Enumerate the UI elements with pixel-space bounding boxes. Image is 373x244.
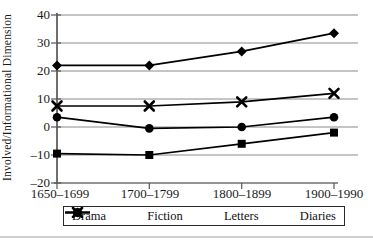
x-tick-label: 1900–1990 (305, 186, 364, 201)
series-drama (52, 28, 339, 70)
legend-item-fiction: Fiction (147, 210, 182, 223)
y-tick-label: –10 (30, 147, 51, 162)
legend-item-label: Diaries (300, 210, 336, 223)
y-tick-label: 20 (37, 63, 50, 78)
legend-box: Drama Fiction Letters Diaries (63, 206, 345, 226)
gridlines-group (57, 15, 358, 155)
x-tick-label: 1700–1799 (121, 186, 180, 201)
bottom-page-rule (0, 236, 373, 238)
square-icon (64, 207, 91, 218)
y-tick-label: 40 (37, 7, 50, 22)
series-group (52, 28, 339, 159)
x-tick-label: 1800–1899 (213, 186, 272, 201)
legend-item-label: Letters (224, 210, 259, 223)
chart-figure: Involved/Informational Dimension 40 30 2… (0, 0, 373, 244)
x-tick-labels: 1650–1699 1700–1799 1800–1899 1900–1990 (31, 186, 364, 201)
y-tick-label: 10 (37, 91, 50, 106)
series-letters (53, 89, 339, 111)
legend-item-letters: Letters (224, 210, 259, 223)
y-tick-label: 0 (44, 119, 51, 134)
legend-item-diaries: Diaries (300, 210, 336, 223)
y-tick-labels: 40 30 20 10 0 –10 –20 (30, 7, 51, 190)
series-fiction (53, 113, 339, 133)
y-tick-label: 30 (37, 35, 50, 50)
series-diaries (53, 129, 338, 159)
legend-item-label: Fiction (147, 210, 182, 223)
x-tick-label: 1650–1699 (31, 186, 90, 201)
x-ticks-group (57, 183, 334, 189)
